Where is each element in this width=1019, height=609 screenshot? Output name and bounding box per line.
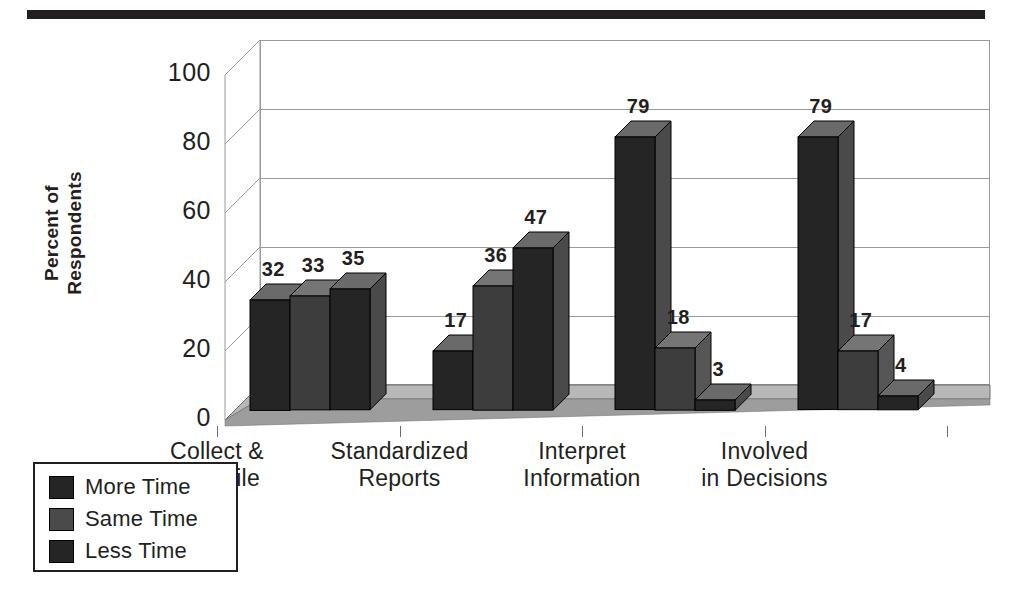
y-axis-title-line-2: Respondents <box>63 171 86 295</box>
bar-front-face <box>473 286 513 410</box>
bar-3d-shape <box>878 380 934 410</box>
x-axis-category-label-line: Collect & <box>117 438 317 465</box>
y-axis-title: Percent of Respondents <box>26 133 100 333</box>
bar-front-face <box>433 351 473 410</box>
bar-front-face <box>513 248 553 410</box>
bar-front-face <box>878 396 918 410</box>
legend-item[interactable]: Same Time <box>49 503 236 535</box>
y-axis-tick-label: 20 <box>139 334 211 363</box>
x-axis-category-label-line: Involved <box>665 438 865 465</box>
bar-front-face <box>695 400 735 410</box>
bar-value-label: 79 <box>796 95 846 118</box>
bar <box>878 380 934 410</box>
bar-side-face <box>370 273 386 410</box>
x-axis-category-label: Involvedin Decisions <box>665 438 865 492</box>
plot-area: 3233351736477918379174 <box>225 40 990 412</box>
legend-color-swatch <box>49 476 74 499</box>
bar-value-label: 18 <box>653 306 703 329</box>
legend-item-label: Same Time <box>85 506 198 532</box>
legend-item[interactable]: More Time <box>49 471 236 503</box>
bar-value-label: 35 <box>328 247 378 270</box>
x-axis-tick <box>582 426 583 437</box>
bar <box>513 232 569 410</box>
bar-front-face <box>290 296 330 410</box>
y-axis-tick-label: 80 <box>139 127 211 156</box>
y-axis-tick-label: 100 <box>139 58 211 87</box>
bar <box>330 273 386 410</box>
bar-front-face <box>655 348 695 410</box>
bar-value-label: 79 <box>613 95 663 118</box>
legend-color-swatch <box>49 540 74 563</box>
x-axis-tick <box>217 426 218 437</box>
bar-front-face <box>838 351 878 410</box>
x-axis-category-label: InterpretInformation <box>482 438 682 492</box>
x-axis-tick <box>947 426 948 437</box>
bar-3d-shape <box>513 232 569 410</box>
x-axis-category-label-line: in Decisions <box>665 465 865 492</box>
y-axis-tick-label: 60 <box>139 196 211 225</box>
bar-front-face <box>615 137 655 410</box>
bar-3d-shape <box>695 384 751 410</box>
bar <box>695 384 751 410</box>
y-axis-tick-label: 0 <box>139 403 211 432</box>
bar-value-label: 4 <box>876 354 926 377</box>
bar-front-face <box>250 300 290 410</box>
bar-value-label: 3 <box>693 358 743 381</box>
x-axis-category-label-line: Interpret <box>482 438 682 465</box>
y-axis-title-line-1: Percent of <box>40 185 63 281</box>
bar-series-container: 3233351736477918379174 <box>225 40 990 412</box>
x-axis-category-label: StandardizedReports <box>300 438 500 492</box>
bar-front-face <box>798 137 838 410</box>
bar-3d-shape <box>330 273 386 410</box>
x-axis-tick <box>765 426 766 437</box>
x-axis-category-label-line: Standardized <box>300 438 500 465</box>
bar-front-face <box>330 289 370 410</box>
legend-color-swatch <box>49 508 74 531</box>
x-axis-category-label-line: Reports <box>300 465 500 492</box>
chart-page: Percent of Respondents 020406080100 3233… <box>0 0 1019 609</box>
bar-value-label: 47 <box>511 206 561 229</box>
legend-item-label: Less Time <box>85 538 187 564</box>
legend-item[interactable]: Less Time <box>49 535 236 567</box>
chart-legend: More TimeSame TimeLess Time <box>33 462 238 572</box>
legend-item-label: More Time <box>85 474 191 500</box>
bar-value-label: 17 <box>836 309 886 332</box>
y-axis-tick-label: 40 <box>139 265 211 294</box>
x-axis-category-label-line: Information <box>482 465 682 492</box>
top-rule-divider <box>27 10 985 19</box>
bar-side-face <box>553 232 569 410</box>
x-axis-tick <box>400 426 401 437</box>
